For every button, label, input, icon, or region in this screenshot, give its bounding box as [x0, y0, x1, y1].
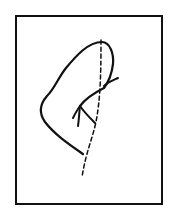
diagram-frame: [16, 16, 162, 204]
paper-edge-curve: [41, 42, 114, 154]
paper-edge-flick: [104, 78, 118, 86]
fold-arrow-icon: [73, 106, 95, 126]
fold-line-dashed: [82, 40, 101, 177]
fold-diagram: [0, 0, 170, 216]
